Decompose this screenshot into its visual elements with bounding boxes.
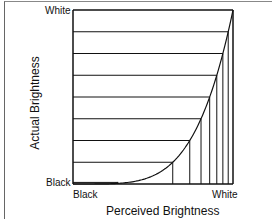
- x-tick-black: Black: [73, 190, 97, 200]
- y-axis-title: Actual Brightness: [29, 50, 41, 156]
- x-axis-title: Perceived Brightness: [106, 205, 219, 217]
- x-tick-white: White: [212, 190, 238, 200]
- y-tick-white: White: [45, 6, 71, 16]
- y-tick-black: Black: [46, 178, 70, 188]
